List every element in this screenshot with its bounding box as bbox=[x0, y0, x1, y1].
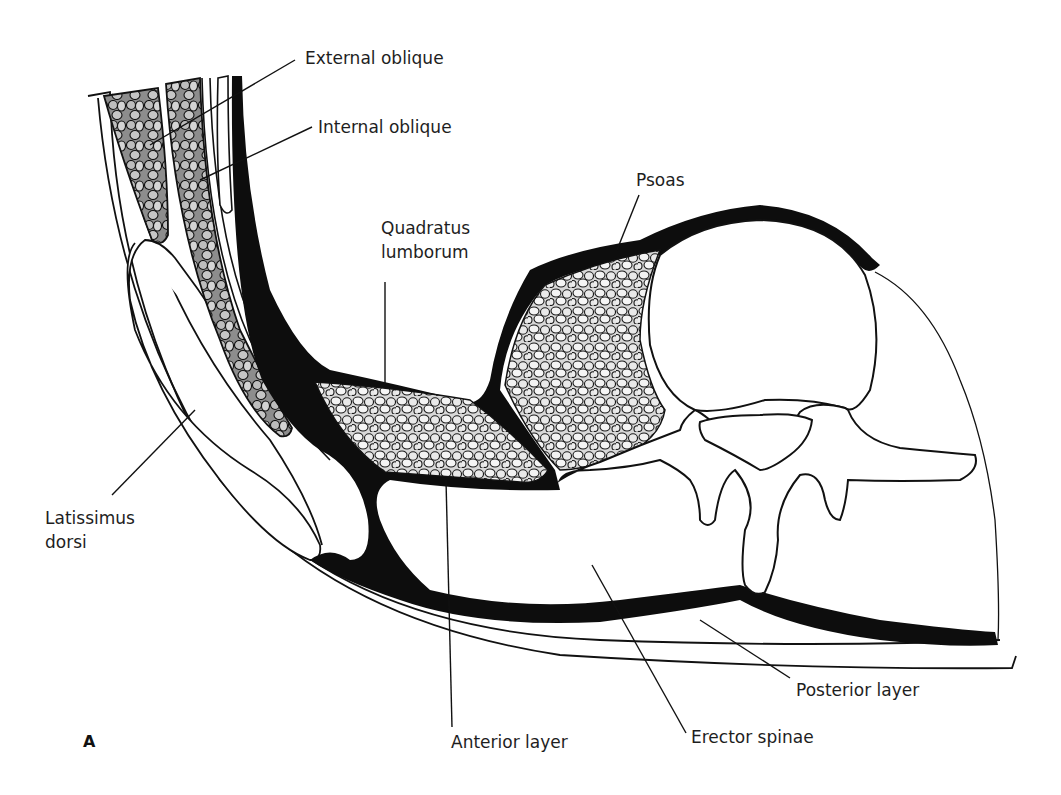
label-psoas: Psoas bbox=[636, 170, 685, 191]
label-latissimus-line2: dorsi bbox=[45, 532, 87, 553]
label-quadratus-line2: lumborum bbox=[381, 242, 469, 263]
label-quadratus-line1: Quadratus bbox=[381, 218, 470, 239]
external-oblique-muscle bbox=[104, 88, 168, 243]
label-internal-oblique: Internal oblique bbox=[318, 117, 452, 138]
label-external-oblique: External oblique bbox=[305, 48, 444, 69]
label-posterior-layer: Posterior layer bbox=[796, 680, 919, 701]
label-erector-spinae: Erector spinae bbox=[691, 727, 814, 748]
panel-label: A bbox=[83, 732, 95, 751]
vertebral-body bbox=[649, 220, 877, 411]
anatomy-diagram bbox=[0, 0, 1061, 795]
label-anterior-layer: Anterior layer bbox=[451, 732, 568, 753]
label-latissimus-line1: Latissimus bbox=[45, 508, 135, 529]
